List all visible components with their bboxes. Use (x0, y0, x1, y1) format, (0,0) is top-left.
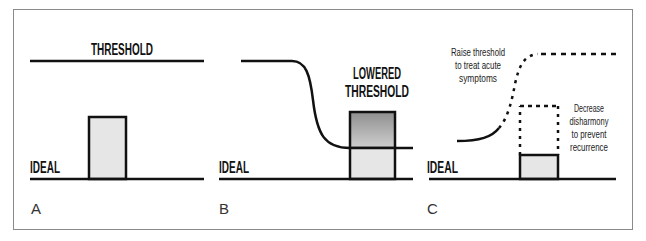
raise-threshold-annotation-line1: Raise threshold (451, 47, 505, 58)
ideal-label: IDEAL (219, 159, 249, 176)
reduced-disharmony-box (520, 155, 558, 179)
decrease-annotation-line2: disharmony (570, 116, 609, 127)
disharmony-box (89, 117, 126, 179)
lowered-threshold-label-line1: LOWERED (353, 65, 401, 82)
threshold-label: THRESHOLD (91, 41, 153, 58)
raised-threshold-curve (499, 54, 538, 128)
panel-letter: C (427, 200, 438, 217)
disharmony-box-above-threshold (350, 112, 395, 148)
current-threshold-curve (457, 128, 499, 141)
threshold-diagram: THRESHOLD IDEAL A LOWERED THRESHOLD IDEA… (0, 0, 646, 241)
disharmony-box-below-threshold (350, 148, 395, 179)
decrease-annotation-line4: recurrence (570, 142, 608, 153)
decrease-annotation-line1: Decrease (574, 103, 604, 114)
panel-letter: A (31, 200, 41, 217)
panel-a: THRESHOLD IDEAL A (30, 41, 204, 217)
ideal-label: IDEAL (30, 159, 60, 176)
raise-threshold-annotation-line3: symptoms (459, 73, 497, 84)
panel-c: Raise threshold to treat acute symptoms … (427, 47, 616, 217)
decrease-annotation-line3: to prevent (572, 129, 607, 140)
lowered-threshold-label-line2: THRESHOLD (345, 83, 409, 100)
raise-threshold-annotation-line2: to treat acute (455, 60, 501, 71)
panel-b: LOWERED THRESHOLD IDEAL B (219, 61, 413, 217)
ideal-label: IDEAL (427, 159, 458, 176)
panel-letter: B (219, 200, 229, 217)
